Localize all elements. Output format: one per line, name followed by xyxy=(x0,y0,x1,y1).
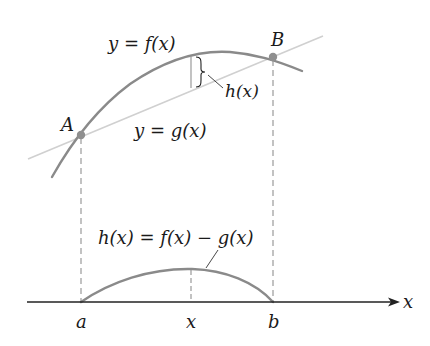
h-equation-label: h(x) = f(x) − g(x) xyxy=(98,227,253,248)
h-equation-leader-line xyxy=(206,250,218,268)
tick-a-label: a xyxy=(76,311,87,332)
h-leader-line xyxy=(208,75,223,88)
f-curve xyxy=(52,52,302,177)
area-between-curves-diagram: y = f(x) y = g(x) A B h(x) h(x) = f(x) −… xyxy=(0,0,430,346)
point-A-label: A xyxy=(59,114,74,135)
tick-b-label: b xyxy=(268,311,280,332)
point-B xyxy=(269,53,277,61)
h-curve xyxy=(81,269,273,302)
f-curve-label: y = f(x) xyxy=(107,33,176,54)
point-A xyxy=(77,131,85,139)
g-line-label: y = g(x) xyxy=(133,120,206,141)
tick-x-label: x xyxy=(186,311,196,332)
point-B-label: B xyxy=(270,29,284,50)
curly-brace-icon xyxy=(196,57,205,87)
x-axis-label: x xyxy=(403,291,413,312)
h-bracket-label: h(x) xyxy=(225,81,259,101)
